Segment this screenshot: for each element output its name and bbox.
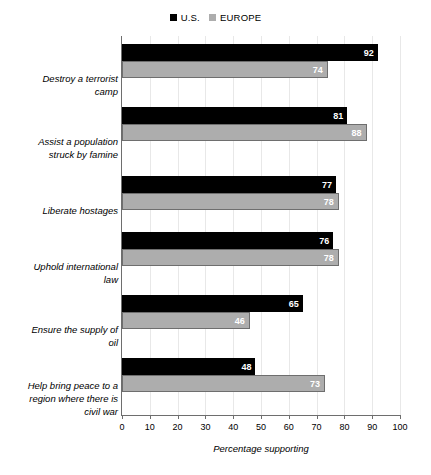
x-axis-tick-label: 80	[339, 422, 349, 432]
bar-us: 48	[122, 358, 255, 375]
x-axis-tick-label: 90	[367, 422, 377, 432]
bar-europe: 74	[122, 61, 328, 78]
x-axis-tick-label: 100	[392, 422, 407, 432]
chart-legend: U.S. EUROPE	[0, 13, 431, 23]
legend-label-europe: EUROPE	[220, 13, 261, 23]
x-axis-tick-label: 0	[119, 422, 124, 432]
x-axis-title: Percentage supporting	[122, 443, 400, 454]
gridline	[344, 36, 345, 415]
x-axis-tick-label: 60	[284, 422, 294, 432]
category-label-line: law	[104, 274, 118, 285]
x-axis-tick-label: 70	[312, 422, 322, 432]
gray-square-icon	[209, 14, 216, 21]
x-axis-tick	[150, 415, 151, 419]
category-label-3: Uphold international law	[0, 260, 118, 286]
category-label-2: Liberate hostages	[0, 204, 118, 217]
bar-europe: 78	[122, 249, 339, 266]
bar-value-label: 48	[241, 362, 251, 371]
bar-chart: U.S. EUROPE Destroy a terrorist camp Ass…	[0, 0, 431, 475]
category-label-line: oil	[108, 337, 118, 348]
category-label-line: Assist a population	[38, 136, 118, 147]
gridline	[261, 36, 262, 415]
x-axis-tick	[261, 415, 262, 419]
bar-europe: 46	[122, 312, 250, 329]
bar-value-label: 81	[333, 111, 343, 120]
gridline	[317, 36, 318, 415]
category-label-line: Liberate hostages	[42, 205, 118, 216]
x-axis-tick-label: 30	[200, 422, 210, 432]
plot-area: 0102030405060708090100 92748188777876786…	[122, 36, 400, 415]
bar-value-label: 78	[324, 197, 334, 206]
category-label-5: Help bring peace to a region where there…	[0, 379, 118, 418]
category-label-4: Ensure the supply of oil	[0, 323, 118, 349]
gridline	[289, 36, 290, 415]
bar-value-label: 46	[235, 316, 245, 325]
bar-value-label: 88	[352, 128, 362, 137]
x-axis-tick	[205, 415, 206, 419]
gridline	[400, 36, 401, 415]
category-label-line: region where there is	[29, 393, 118, 404]
x-axis-tick	[122, 415, 123, 419]
category-label-line: Help bring peace to a	[28, 380, 118, 391]
bar-europe: 78	[122, 193, 339, 210]
bar-value-label: 77	[322, 180, 332, 189]
bar-value-label: 65	[289, 299, 299, 308]
x-axis-tick	[178, 415, 179, 419]
bar-europe: 88	[122, 124, 367, 141]
bar-us: 81	[122, 107, 347, 124]
bar-us: 77	[122, 176, 336, 193]
bar-value-label: 73	[310, 379, 320, 388]
category-label-line: struck by famine	[49, 149, 118, 160]
bar-us: 92	[122, 44, 378, 61]
x-axis-tick	[317, 415, 318, 419]
category-label-line: civil war	[84, 406, 118, 417]
category-label-line: Uphold international	[33, 261, 118, 272]
x-axis-tick	[372, 415, 373, 419]
legend-item-us: U.S.	[170, 13, 200, 23]
x-axis-tick-label: 40	[228, 422, 238, 432]
legend-item-europe: EUROPE	[209, 13, 261, 23]
bar-europe: 73	[122, 375, 325, 392]
category-label-line: Ensure the supply of	[31, 324, 118, 335]
bar-value-label: 92	[364, 48, 374, 57]
x-axis-tick-label: 10	[145, 422, 155, 432]
category-label-0: Destroy a terrorist camp	[0, 72, 118, 98]
legend-label-us: U.S.	[181, 13, 200, 23]
bar-value-label: 76	[319, 236, 329, 245]
x-axis-tick-label: 20	[173, 422, 183, 432]
x-axis-tick	[289, 415, 290, 419]
bar-us: 76	[122, 232, 333, 249]
bar-us: 65	[122, 295, 303, 312]
x-axis-tick	[233, 415, 234, 419]
category-axis-labels: Destroy a terrorist camp Assist a popula…	[0, 36, 118, 415]
x-axis-tick	[344, 415, 345, 419]
gridline	[372, 36, 373, 415]
category-label-1: Assist a population struck by famine	[0, 135, 118, 161]
category-label-line: Destroy a terrorist	[43, 73, 119, 84]
category-label-line: camp	[95, 86, 118, 97]
bar-value-label: 74	[313, 65, 323, 74]
bar-value-label: 78	[324, 253, 334, 262]
x-axis-tick	[400, 415, 401, 419]
black-square-icon	[170, 14, 177, 21]
x-axis-tick-label: 50	[256, 422, 266, 432]
